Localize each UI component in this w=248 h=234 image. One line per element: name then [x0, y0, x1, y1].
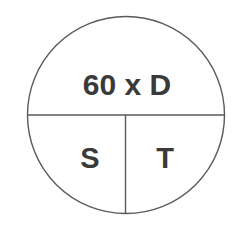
- bottom-left-label: S: [80, 142, 99, 174]
- bottom-right-label: T: [156, 142, 174, 174]
- top-label: 60 x D: [83, 68, 171, 101]
- formula-circle-diagram: 60 x D S T: [0, 0, 248, 234]
